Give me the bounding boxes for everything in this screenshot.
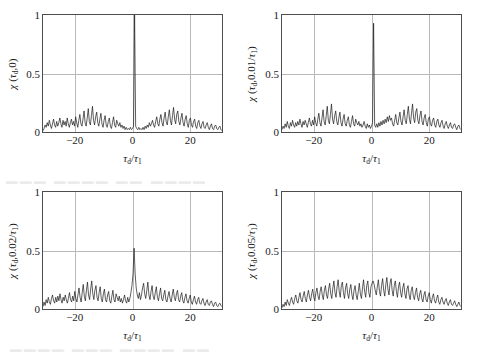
x-tick-0: 0 <box>369 135 375 146</box>
y-tick-1: 1 <box>274 187 280 198</box>
plot-panel-top-left: χ (τd,0) 1 0.5 0 −20 0 20 τd/τ1 <box>0 0 238 178</box>
y-axis-label-bottom-right: χ (τd,0.05/τ1) <box>243 191 259 310</box>
x-tick-0: 0 <box>369 312 375 323</box>
x-tick-pos20: 20 <box>185 135 196 146</box>
y-tick-0p5: 0.5 <box>26 245 40 256</box>
y-axis-label-top-left: χ (τd,0) <box>4 14 20 133</box>
y-axis-label-bottom-left: χ (τd,0.02/τ1) <box>4 191 20 310</box>
y-tick-1: 1 <box>274 10 280 21</box>
plot-panel-top-right: χ (τd,0.01/τ1) 1 0.5 0 −20 0 20 τd/τ1 <box>239 0 477 178</box>
x-tick-pos20: 20 <box>424 312 435 323</box>
x-tick-neg20: −20 <box>66 135 83 146</box>
y-axis-label-top-right: χ (τd,0.01/τ1) <box>243 14 259 133</box>
chi-symbol: χ <box>245 96 257 101</box>
x-tick-pos20: 20 <box>424 135 435 146</box>
x-tick-neg20: −20 <box>66 312 83 323</box>
x-tick-neg20: −20 <box>305 135 322 146</box>
chi-symbol: χ <box>6 273 18 278</box>
y-tick-0: 0 <box>274 304 280 315</box>
y-tick-0p5: 0.5 <box>265 68 279 79</box>
y-tick-0: 0 <box>274 127 280 138</box>
plot-frame-bottom-left: 1 0.5 0 −20 0 20 <box>42 191 223 310</box>
y-tick-1: 1 <box>35 10 41 21</box>
curve-top-left <box>43 15 222 132</box>
y-tick-0: 0 <box>35 127 41 138</box>
chi-symbol: χ <box>245 273 257 278</box>
y-tick-0p5: 0.5 <box>265 245 279 256</box>
plot-frame-top-left: 1 0.5 0 −20 0 20 <box>42 14 223 133</box>
x-tick-0: 0 <box>130 312 136 323</box>
x-axis-label-bottom-right: τd/τ1 <box>281 329 462 341</box>
plot-panel-bottom-right: χ (τd,0.05/τ1) 1 0.5 0 −20 0 20 τd/τ1 <box>239 177 477 355</box>
y-tick-1: 1 <box>35 187 41 198</box>
plot-frame-top-right: 1 0.5 0 −20 0 20 <box>281 14 462 133</box>
plot-frame-bottom-right: 1 0.5 0 −20 0 20 <box>281 191 462 310</box>
curve-bottom-right <box>282 192 461 309</box>
x-axis-label-bottom-left: τd/τ1 <box>42 329 223 341</box>
curve-top-right <box>282 15 461 132</box>
ambiguity-function-figure: ▁▁▁ ▁▁▁▁ ▁▁ ▁▁▁▁ ▁▁▁▁ ▁▁▁ ▁▁▁▁ ▁▁ χ (τd,… <box>0 0 477 356</box>
chi-symbol: χ <box>6 84 18 89</box>
plot-panel-bottom-left: χ (τd,0.02/τ1) 1 0.5 0 −20 0 20 τd/τ1 <box>0 177 238 355</box>
x-axis-label-top-left: τd/τ1 <box>42 152 223 164</box>
x-axis-label-top-right: τd/τ1 <box>281 152 462 164</box>
y-tick-0: 0 <box>35 304 41 315</box>
x-tick-0: 0 <box>130 135 136 146</box>
curve-bottom-left <box>43 192 222 309</box>
x-tick-neg20: −20 <box>305 312 322 323</box>
y-tick-0p5: 0.5 <box>26 68 40 79</box>
x-tick-pos20: 20 <box>185 312 196 323</box>
